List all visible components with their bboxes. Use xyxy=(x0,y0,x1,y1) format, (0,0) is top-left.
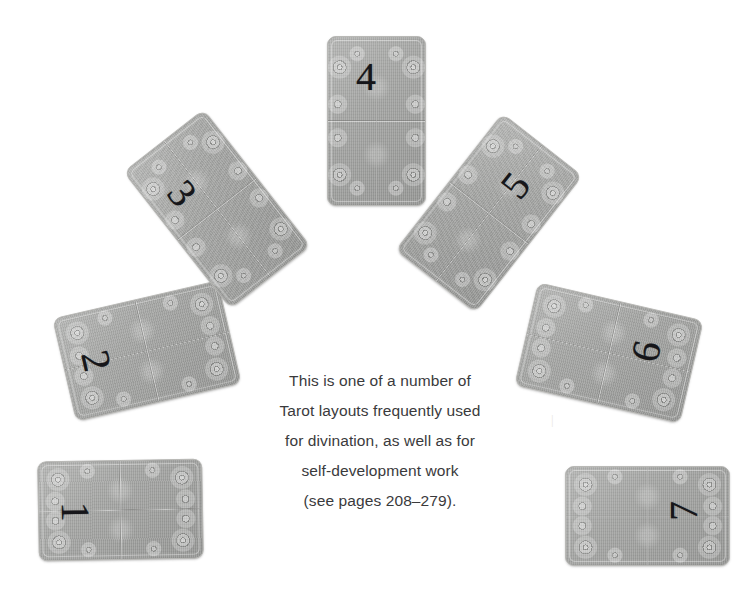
card-3[interactable]: 3 xyxy=(123,109,311,309)
card-back-pattern xyxy=(515,283,702,422)
card-6[interactable]: 6 xyxy=(514,282,703,424)
caption-line: for divination, as well as for xyxy=(256,426,504,456)
caption-line: (see pages 208–279). xyxy=(256,486,504,516)
card-number-4: 4 xyxy=(356,57,376,97)
caption-line: This is one of a number of xyxy=(256,366,504,396)
card-back-pattern xyxy=(328,37,425,205)
card-7[interactable]: 7 xyxy=(565,466,730,566)
caption-line: self-development work xyxy=(256,456,504,486)
caption-line: Tarot layouts frequently used xyxy=(256,396,504,426)
card-number-7: 7 xyxy=(664,501,704,521)
card-2[interactable]: 2 xyxy=(52,280,241,422)
tarot-layout-canvas: |laterreg| 1234567 This is one of a numb… xyxy=(0,0,752,600)
card-1[interactable]: 1 xyxy=(37,459,204,562)
scanner-ghost-text: | xyxy=(551,412,555,428)
card-4[interactable]: 4 xyxy=(327,36,426,206)
card-back-pattern xyxy=(53,281,240,420)
layout-caption: This is one of a number ofTarot layouts … xyxy=(256,366,504,516)
card-back-pattern xyxy=(125,110,310,307)
card-number-1: 1 xyxy=(55,501,95,522)
